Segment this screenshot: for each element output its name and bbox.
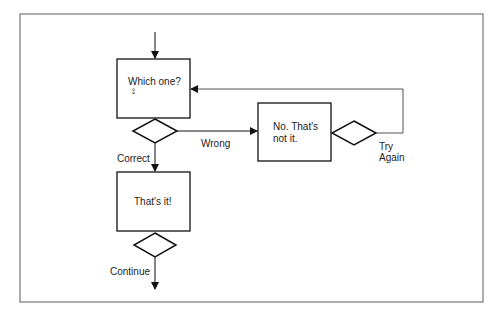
edge-label-continue: Continue [110,266,150,277]
edge-label-try: Try [379,141,393,152]
decision-diamond-2 [332,121,376,145]
diagram-frame [20,14,483,302]
question-sub-glyph: °° [128,88,134,94]
wrong-box-line1: No. That's [273,121,318,132]
decision-diamond-3 [134,233,176,257]
correct-box-label: That's it! [134,196,171,207]
edge-label-again: Again [379,152,405,163]
decision-diamond-1 [133,119,177,143]
flowchart-canvas [0,0,500,316]
wrong-box-line2: not it. [273,133,297,144]
wrong-box [258,103,331,161]
question-label: Which one? [128,76,181,87]
edge-label-wrong: Wrong [201,138,230,149]
edge-label-correct: Correct [117,153,150,164]
